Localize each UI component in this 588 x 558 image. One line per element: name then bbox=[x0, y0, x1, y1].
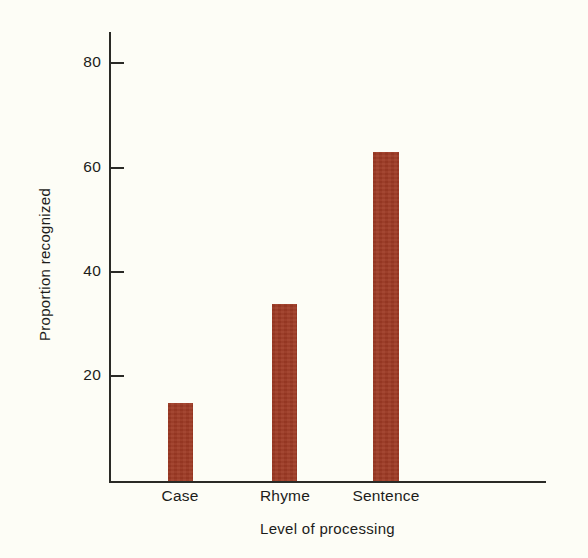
y-tick-mark-40 bbox=[111, 271, 124, 273]
x-tick-label-rhyme: Rhyme bbox=[235, 487, 335, 505]
bar-case bbox=[168, 403, 193, 481]
y-axis-line bbox=[109, 32, 111, 483]
y-tick-mark-80 bbox=[111, 62, 124, 64]
bar-rhyme bbox=[272, 304, 297, 481]
bar-sentence bbox=[373, 152, 399, 481]
x-axis-title: Level of processing bbox=[109, 520, 546, 537]
x-tick-label-case: Case bbox=[130, 487, 230, 505]
x-tick-label-sentence: Sentence bbox=[336, 487, 436, 505]
y-tick-label-80: 80 bbox=[41, 53, 101, 71]
x-axis-line bbox=[109, 481, 546, 483]
y-tick-mark-60 bbox=[111, 167, 124, 169]
y-tick-mark-20 bbox=[111, 375, 124, 377]
y-axis-title: Proportion recognized bbox=[36, 145, 53, 385]
bar-chart-figure: 20 40 60 80 Case Rhyme Sentence Proporti… bbox=[0, 0, 588, 558]
